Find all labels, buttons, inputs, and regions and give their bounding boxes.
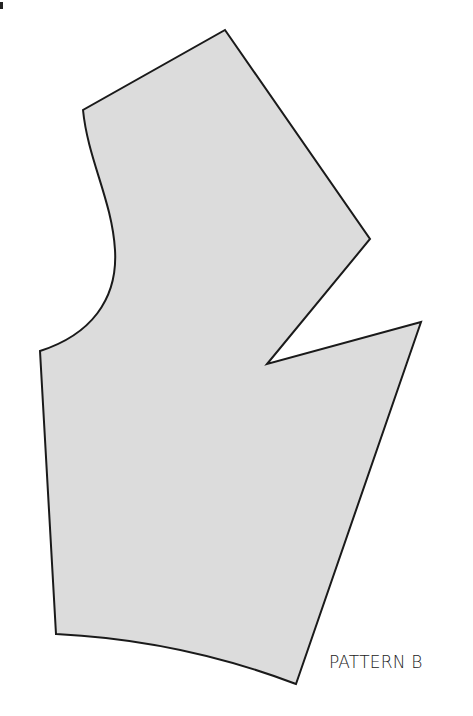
- pattern-b-outline: [40, 30, 421, 684]
- pattern-piece-diagram: [0, 0, 473, 716]
- pattern-canvas: PATTERN B: [0, 0, 473, 716]
- pattern-label: PATTERN B: [329, 652, 423, 672]
